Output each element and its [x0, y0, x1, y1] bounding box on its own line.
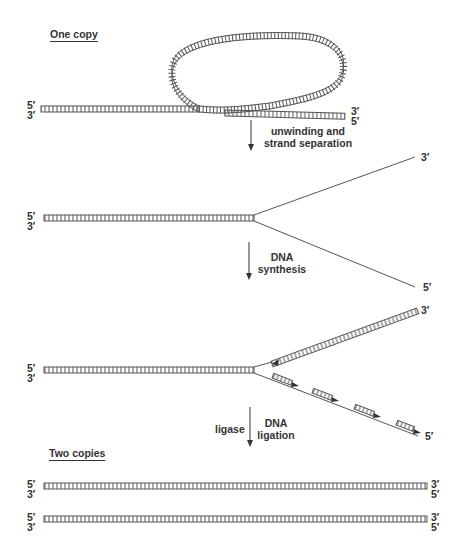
step-unwinding-label: unwinding and strand separation — [258, 125, 358, 149]
end-label-5prime: 5′ — [425, 431, 433, 441]
end-label-3prime: 3′ — [27, 221, 35, 231]
stage2-fork — [44, 157, 415, 287]
end-label-3prime: 3′ — [27, 110, 35, 120]
end-label-5prime: 5′ — [431, 489, 439, 499]
dna-replication-diagram — [0, 0, 462, 556]
step-ligase-enzyme-label: ligase — [215, 423, 245, 435]
step-synthesis-label: DNA synthesis — [257, 251, 307, 275]
end-label-5prime: 5′ — [423, 282, 431, 292]
end-label-3prime: 3′ — [27, 373, 35, 383]
step-ligation-label: DNA ligation — [256, 417, 296, 441]
heading-two-copies: Two copies — [49, 447, 105, 459]
end-label-3prime: 3′ — [421, 305, 429, 315]
end-label-3prime: 3′ — [27, 522, 35, 532]
heading-one-copy: One copy — [50, 28, 98, 40]
end-label-3prime: 3′ — [421, 152, 429, 162]
end-label-5prime: 5′ — [431, 522, 439, 532]
stage4-two-copies — [44, 483, 427, 522]
end-label-3prime: 3′ — [27, 489, 35, 499]
